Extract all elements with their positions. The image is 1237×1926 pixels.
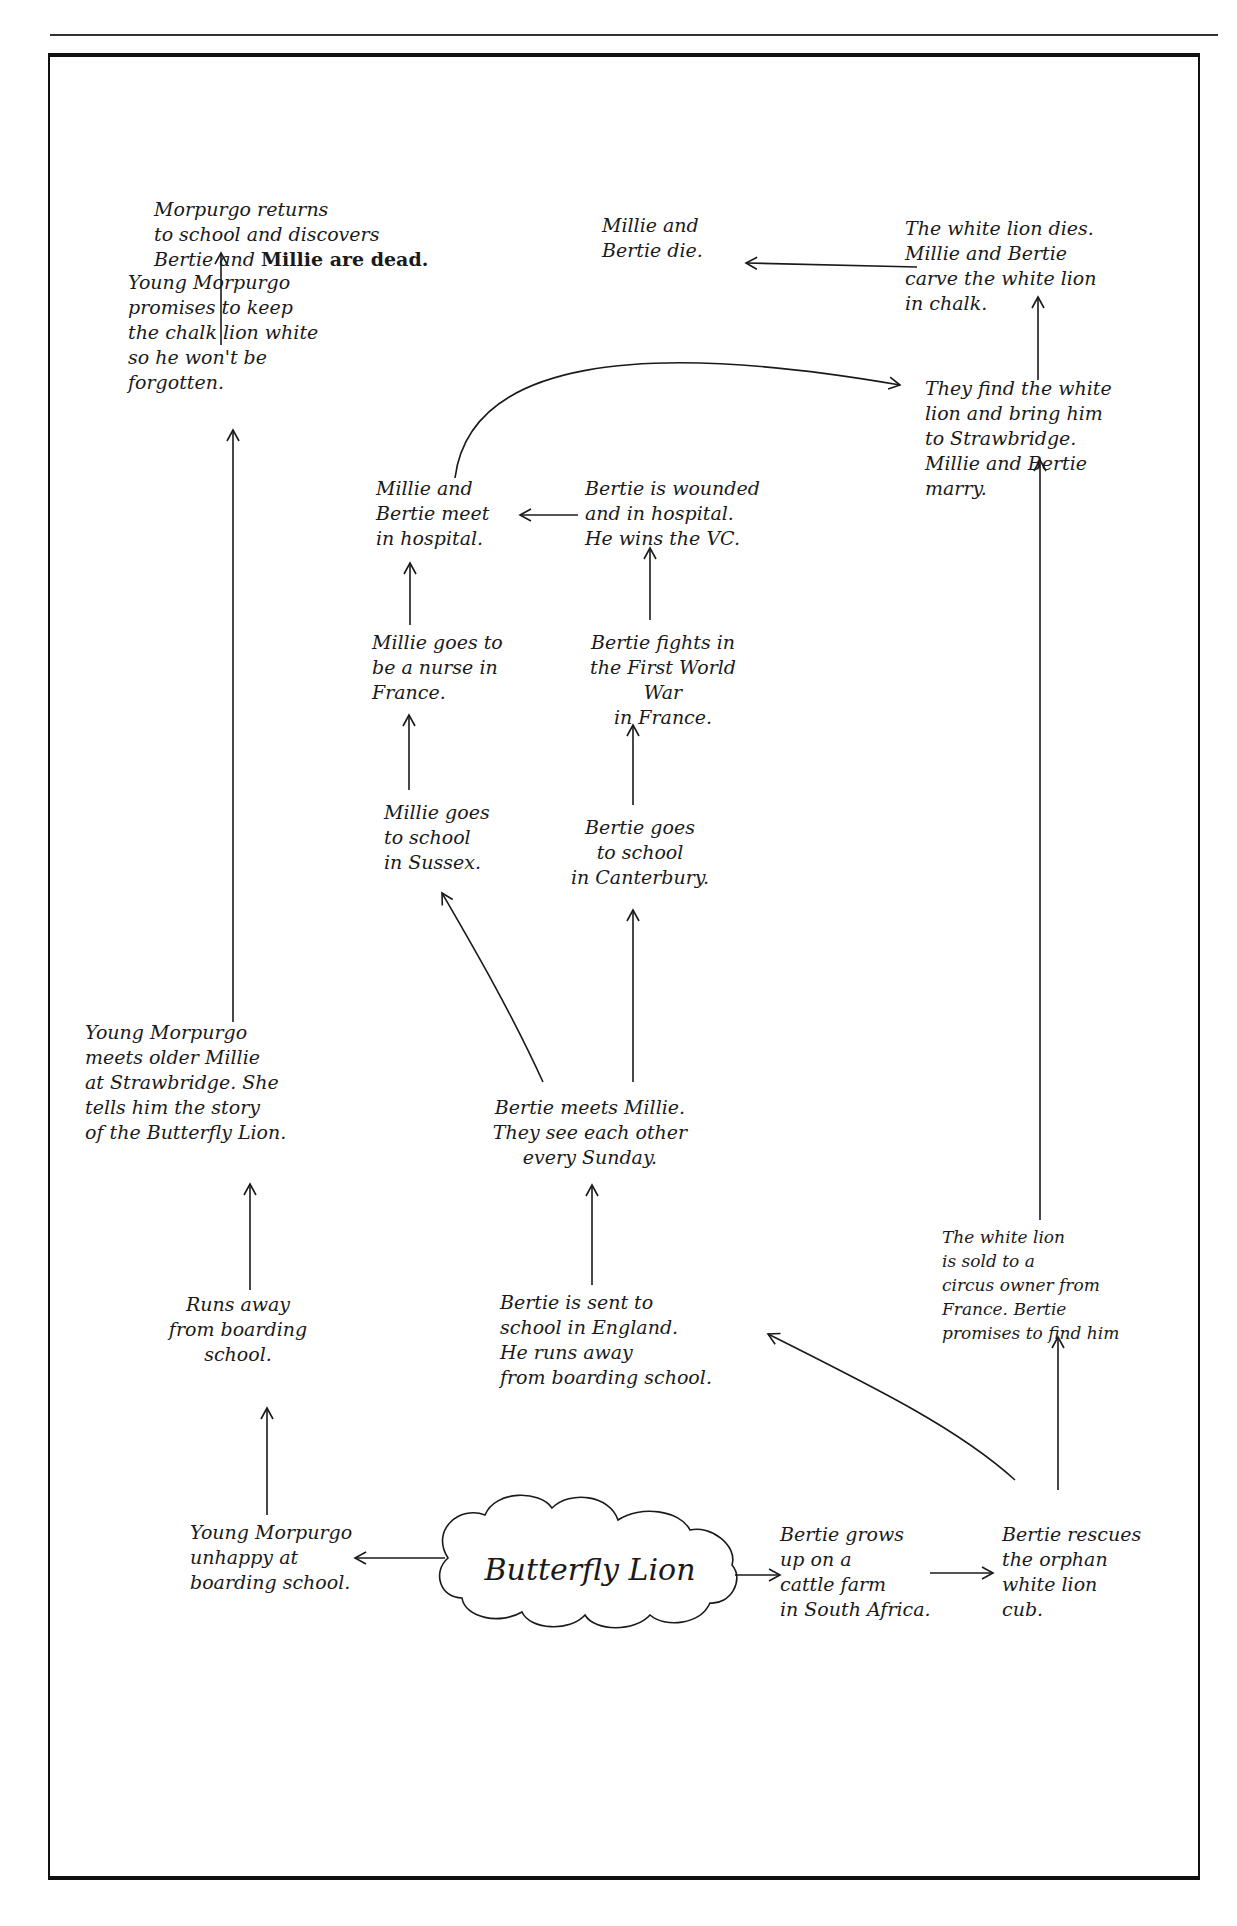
node-young-promises: Young Morpurgo promises to keep the chal… xyxy=(128,270,348,395)
node-bertie-school: Bertie goes to school in Canterbury. xyxy=(565,815,715,890)
node-morpurgo-returns: Morpurgo returns to school and discovers… xyxy=(154,172,428,272)
node-meet-in-hospital: Millie and Bertie meet in hospital. xyxy=(376,476,489,551)
node-bertie-grows: Bertie grows up on a cattle farm in Sout… xyxy=(780,1522,931,1622)
node-bertie-wounded: Bertie is wounded and in hospital. He wi… xyxy=(585,476,760,551)
top-rule xyxy=(50,34,1218,36)
node-young-unhappy: Young Morpurgo unhappy at boarding schoo… xyxy=(190,1520,352,1595)
node-millie-bertie-die: Millie and Bertie die. xyxy=(602,213,703,263)
node-bertie-fights: Bertie fights in the First World War in … xyxy=(578,630,748,730)
node-bertie-sent: Bertie is sent to school in England. He … xyxy=(500,1290,712,1390)
node-morpurgo-returns-bold: Millie are dead. xyxy=(261,248,428,270)
node-white-lion-dies: The white lion dies. Millie and Bertie c… xyxy=(905,216,1097,316)
node-young-meets-millie: Young Morpurgo meets older Millie at Str… xyxy=(85,1020,286,1145)
node-white-lion-sold: The white lion is sold to a circus owner… xyxy=(942,1225,1119,1345)
node-runs-away: Runs away from boarding school. xyxy=(148,1292,328,1367)
node-find-white-lion: They find the white lion and bring him t… xyxy=(925,376,1112,501)
central-topic: Butterfly Lion xyxy=(470,1552,710,1587)
node-millie-nurse: Millie goes to be a nurse in France. xyxy=(372,630,503,705)
node-bertie-rescues: Bertie rescues the orphan white lion cub… xyxy=(1002,1522,1141,1622)
node-bertie-meets-millie: Bertie meets Millie. They see each other… xyxy=(480,1095,700,1170)
node-millie-school: Millie goes to school in Sussex. xyxy=(384,800,490,875)
